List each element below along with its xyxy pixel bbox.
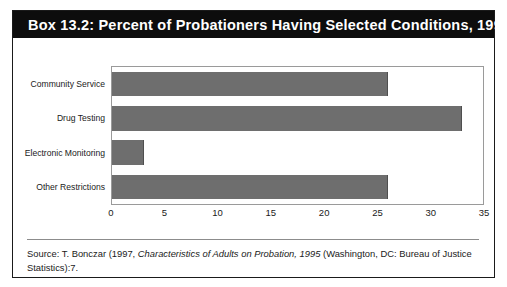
source-prefix: Source: T. Bonczar (1997, — [27, 248, 138, 259]
source-italic-title: Characteristics of Adults on Probation, … — [138, 248, 321, 259]
x-tick-label: 20 — [319, 207, 330, 218]
x-tick-label: 25 — [372, 207, 383, 218]
box-header: Box 13.2: Percent of Probationers Having… — [13, 11, 494, 38]
chart-area: Community Service Drug Testing Electroni… — [13, 38, 494, 234]
bar-row: Drug Testing — [112, 101, 483, 135]
category-label-3: Other Restrictions — [0, 182, 105, 192]
x-tick-label: 5 — [162, 207, 167, 218]
bar-drug-testing — [112, 106, 462, 131]
x-tick-label: 30 — [425, 207, 436, 218]
plot-frame: Community Service Drug Testing Electroni… — [111, 66, 484, 205]
bar-electronic-monitoring — [112, 140, 144, 165]
box-container: Box 13.2: Percent of Probationers Having… — [12, 10, 495, 278]
page-title: Box 13.2: Percent of Probationers Having… — [28, 17, 507, 33]
category-label-2: Electronic Monitoring — [0, 148, 105, 158]
x-tick-label: 35 — [479, 207, 490, 218]
divider — [27, 239, 479, 240]
bar-other-restrictions — [112, 175, 388, 200]
bar-row: Electronic Monitoring — [112, 136, 483, 170]
category-label-1: Drug Testing — [0, 113, 105, 123]
bar-row: Other Restrictions — [112, 170, 483, 204]
source-citation: Source: T. Bonczar (1997, Characteristic… — [27, 247, 483, 274]
bar-community-service — [112, 72, 388, 97]
x-tick-label: 0 — [108, 207, 113, 218]
category-label-0: Community Service — [0, 79, 105, 89]
bar-row: Community Service — [112, 67, 483, 101]
x-tick-label: 10 — [212, 207, 223, 218]
x-tick-label: 15 — [266, 207, 277, 218]
